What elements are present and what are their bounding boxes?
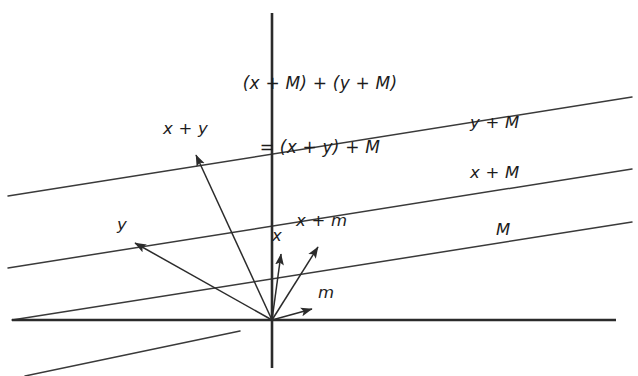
title-line-2: = (x + y) + M [243, 137, 398, 158]
vector-label-x: x [272, 226, 282, 247]
vector-addition-figure: (x + M) + (y + M) = (x + y) + M y + M x … [0, 0, 638, 376]
coset-label-x-plus-M: x + M [470, 163, 519, 184]
coset-line-3 [25, 331, 240, 376]
coset-label-y-plus-M: y + M [470, 113, 519, 134]
figure-title: (x + M) + (y + M) = (x + y) + M [243, 30, 398, 201]
vector-label-x-plus-m: x + m [296, 211, 347, 232]
vector-label-y: y [117, 215, 127, 236]
vector-label-m: m [318, 283, 334, 304]
vector-arrow-x [272, 254, 281, 320]
coset-line-2 [12, 222, 632, 320]
title-line-1: (x + M) + (y + M) [243, 73, 398, 94]
vector-label-x-plus-y: x + y [163, 119, 208, 140]
coset-label-M: M [496, 220, 510, 241]
